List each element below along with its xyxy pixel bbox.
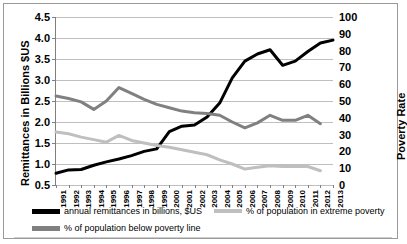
x-axis-tick: [132, 185, 133, 188]
right-axis-tick-label: 50: [339, 95, 351, 107]
x-axis-tick: [320, 185, 321, 188]
x-axis-tick: [94, 185, 95, 188]
series-line: [56, 88, 320, 128]
data-series-layer: [56, 17, 333, 185]
left-axis-tick-label: 2.0: [35, 116, 50, 128]
legend-swatch-extreme-poverty: [214, 209, 242, 213]
left-axis-title: Remittances in Billions $US: [19, 41, 31, 186]
x-axis-tick: [182, 185, 183, 188]
legend-item-extreme-poverty: % of population in extreme poverty: [214, 206, 385, 216]
legend-swatch-remittances: [32, 209, 60, 214]
x-axis-tick: [207, 185, 208, 188]
x-axis-tick: [169, 185, 170, 188]
right-axis-tick-label: 70: [339, 61, 351, 73]
legend-label-remittances: annual remittances in billions, $US: [64, 206, 202, 216]
left-axis-tick-label: 4.5: [35, 11, 50, 23]
legend-swatch-poverty-line: [32, 226, 60, 231]
x-axis-tick: [295, 185, 296, 188]
x-axis-tick: [270, 185, 271, 188]
legend-row-1: annual remittances in billions, $US % of…: [14, 203, 392, 220]
legend-item-poverty-line: % of population below poverty line: [32, 223, 201, 233]
left-axis-tick-label: 3.0: [35, 74, 50, 86]
left-axis-tick-label: 3.5: [35, 53, 50, 65]
left-axis-tick-label: 0.5: [35, 179, 50, 191]
x-axis-tick: [119, 185, 120, 188]
x-axis-tick: [257, 185, 258, 188]
x-axis-tick: [245, 185, 246, 188]
x-axis-tick: [220, 185, 221, 188]
legend-item-remittances: annual remittances in billions, $US: [32, 206, 202, 216]
left-axis-tick-label: 4.0: [35, 32, 50, 44]
right-axis-tick-label: 60: [339, 78, 351, 90]
legend-row-2: % of population below poverty line: [14, 220, 392, 237]
plot-area: 4.54.03.53.02.52.01.51.00.5 100908070605…: [55, 17, 332, 185]
x-axis-tick: [81, 185, 82, 188]
chart-frame: Remittances in Billions $US Poverty Rate…: [3, 3, 398, 239]
x-axis-tick: [69, 185, 70, 188]
right-axis-tick-label: 80: [339, 45, 351, 57]
x-axis-tick: [157, 185, 158, 188]
x-axis-tick: [333, 185, 334, 188]
chart-legend: annual remittances in billions, $US % of…: [14, 203, 392, 237]
right-axis-tick-label: 30: [339, 129, 351, 141]
right-axis-tick-label: 90: [339, 28, 351, 40]
legend-separator: [14, 237, 392, 238]
x-axis-tick: [232, 185, 233, 188]
right-axis-tick-label: 10: [339, 162, 351, 174]
x-axis-tick: [308, 185, 309, 188]
legend-label-poverty-line: % of population below poverty line: [64, 223, 201, 233]
x-axis-tick: [106, 185, 107, 188]
right-axis-tick-label: 40: [339, 112, 351, 124]
x-axis-tick: [56, 185, 57, 188]
left-axis-tick-label: 1.0: [35, 158, 50, 170]
right-axis-tick-label: 100: [339, 11, 357, 23]
right-axis-title: Poverty Rate: [395, 93, 407, 160]
x-axis-tick: [283, 185, 284, 188]
left-axis-tick-label: 2.5: [35, 95, 50, 107]
x-axis-tick: [144, 185, 145, 188]
left-axis-tick-label: 1.5: [35, 137, 50, 149]
right-axis-tick-label: 20: [339, 145, 351, 157]
legend-label-extreme-poverty: % of population in extreme poverty: [246, 206, 385, 216]
x-axis-tick: [195, 185, 196, 188]
